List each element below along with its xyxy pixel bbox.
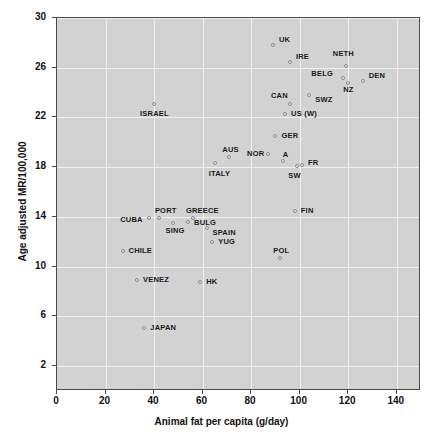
gridline-vertical: [348, 18, 349, 389]
x-tick-mark: [250, 390, 251, 394]
gridline-horizontal: [57, 167, 419, 168]
x-tick-label: 20: [85, 396, 125, 406]
data-point-label: AUS: [222, 146, 238, 154]
data-point-marker[interactable]: [266, 152, 270, 156]
data-point-marker[interactable]: [205, 226, 209, 230]
data-point-marker[interactable]: [307, 93, 311, 97]
gridline-vertical: [203, 18, 204, 389]
data-point-marker[interactable]: [273, 134, 277, 138]
gridline-horizontal: [57, 18, 419, 19]
data-point-label: PORT: [155, 207, 177, 215]
data-point-label: IRE: [296, 53, 309, 61]
data-point-marker[interactable]: [271, 43, 275, 47]
data-point-marker[interactable]: [121, 249, 125, 253]
x-axis-label: Animal fat per capita (g/day): [0, 416, 443, 427]
data-point-marker[interactable]: [227, 155, 231, 159]
data-point-label: VENEZ: [143, 276, 169, 284]
data-point-label: FR: [308, 159, 318, 167]
data-point-label: CHILE: [129, 247, 153, 255]
data-point-label: A: [283, 151, 289, 159]
x-tick-mark: [153, 390, 154, 394]
data-point-label: SWZ: [315, 96, 332, 104]
x-tick-label: 60: [182, 396, 222, 406]
data-point-label: SPAIN: [212, 229, 235, 237]
gridline-vertical: [300, 18, 301, 389]
x-tick-mark: [202, 390, 203, 394]
data-point-marker[interactable]: [171, 221, 175, 225]
data-point-marker[interactable]: [198, 280, 202, 284]
scatter-plot-figure: UKIRENETHBELGDENNZSWZCANUS (W)ISRAELGERN…: [0, 0, 443, 440]
y-tick-mark: [52, 116, 56, 117]
data-point-marker[interactable]: [283, 112, 287, 116]
gridline-horizontal: [57, 267, 419, 268]
y-tick-label: 6: [16, 310, 46, 320]
data-point-label: CAN: [271, 92, 288, 100]
data-point-label: GER: [281, 132, 298, 140]
gridline-horizontal: [57, 68, 419, 69]
gridline-horizontal: [57, 316, 419, 317]
data-point-label: SW: [288, 172, 300, 180]
y-tick-mark: [52, 365, 56, 366]
plot-area: UKIRENETHBELGDENNZSWZCANUS (W)ISRAELGERN…: [56, 17, 420, 390]
x-tick-label: 140: [376, 396, 416, 406]
data-point-label: HK: [206, 278, 217, 286]
data-point-label: FIN: [301, 207, 314, 215]
x-tick-mark: [105, 390, 106, 394]
data-point-label: ISRAEL: [140, 110, 169, 118]
gridline-horizontal: [57, 366, 419, 367]
data-point-label: NETH: [333, 50, 354, 58]
data-point-marker[interactable]: [142, 326, 146, 330]
gridline-horizontal: [57, 217, 419, 218]
y-tick-mark: [52, 67, 56, 68]
data-point-label: JAPAN: [150, 324, 176, 332]
y-tick-mark: [52, 315, 56, 316]
data-point-label: CUBA: [120, 216, 142, 224]
data-point-marker[interactable]: [135, 278, 139, 282]
data-point-marker[interactable]: [300, 163, 304, 167]
data-point-marker[interactable]: [281, 159, 285, 163]
y-tick-label: 2: [16, 360, 46, 370]
data-point-label: NZ: [343, 86, 353, 94]
x-tick-mark: [299, 390, 300, 394]
data-point-marker[interactable]: [341, 76, 345, 80]
data-point-marker[interactable]: [361, 79, 365, 83]
data-point-label: GREECE: [186, 207, 219, 215]
data-point-marker[interactable]: [288, 60, 292, 64]
x-tick-label: 80: [230, 396, 270, 406]
y-tick-mark: [52, 17, 56, 18]
gridline-vertical: [106, 18, 107, 389]
gridline-vertical: [397, 18, 398, 389]
gridline-vertical: [154, 18, 155, 389]
x-tick-label: 40: [133, 396, 173, 406]
y-tick-label: 30: [16, 12, 46, 22]
data-point-marker[interactable]: [210, 240, 214, 244]
y-tick-mark: [52, 266, 56, 267]
data-point-label: POL: [273, 247, 289, 255]
data-point-label: NOR: [247, 150, 264, 158]
data-point-marker[interactable]: [293, 209, 297, 213]
x-tick-mark: [396, 390, 397, 394]
data-point-label: US (W): [291, 110, 317, 118]
data-point-marker[interactable]: [157, 216, 161, 220]
gridline-horizontal: [57, 117, 419, 118]
x-tick-label: 0: [36, 396, 76, 406]
y-axis-label: Age adjusted MR/100,000: [17, 92, 28, 312]
x-tick-label: 120: [327, 396, 367, 406]
data-point-marker[interactable]: [147, 216, 151, 220]
data-point-label: SING: [165, 227, 184, 235]
data-point-label: YUG: [218, 238, 235, 246]
data-point-marker[interactable]: [278, 256, 282, 260]
y-tick-mark: [52, 216, 56, 217]
data-point-label: ITALY: [209, 170, 230, 178]
x-tick-label: 100: [279, 396, 319, 406]
gridline-vertical: [251, 18, 252, 389]
y-tick-label: 26: [16, 62, 46, 72]
data-point-label: UK: [279, 36, 290, 44]
x-tick-mark: [347, 390, 348, 394]
y-tick-mark: [52, 166, 56, 167]
data-point-label: DEN: [369, 72, 385, 80]
data-point-marker[interactable]: [213, 161, 217, 165]
data-point-marker[interactable]: [186, 220, 190, 224]
data-point-marker[interactable]: [152, 102, 156, 106]
data-point-marker[interactable]: [288, 102, 292, 106]
